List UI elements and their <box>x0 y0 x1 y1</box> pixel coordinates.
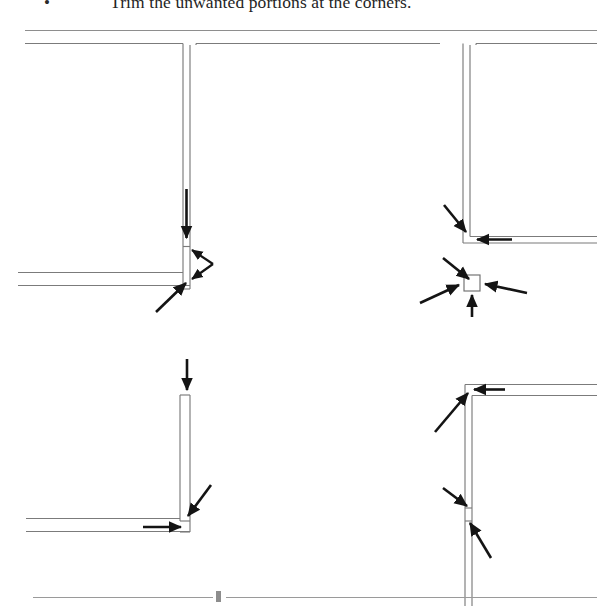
arrow-callout-up-right <box>420 285 459 303</box>
arrow-diagonal-down-left <box>188 485 211 516</box>
arrow-diagonal-up-right <box>156 283 186 312</box>
panel-top-right <box>420 44 597 318</box>
page: • Trim the unwanted portions at the corn… <box>0 0 605 606</box>
figure-diagram <box>0 0 605 606</box>
arrow-diagonal-down-right-mid <box>443 488 467 506</box>
panel-top-left <box>18 44 440 313</box>
arrow-callout-down-right <box>443 258 469 279</box>
arrow-diagonal-up-right <box>435 393 468 432</box>
panel-bottom-right <box>435 385 597 606</box>
arrow-diagonal-up-left-mid <box>470 523 491 558</box>
arrow-callout-left <box>485 284 527 293</box>
bottom-rule <box>33 591 597 602</box>
panel-bottom-left <box>26 359 211 532</box>
leftover-block-callout <box>420 258 527 317</box>
arrow-double-left <box>192 250 213 279</box>
